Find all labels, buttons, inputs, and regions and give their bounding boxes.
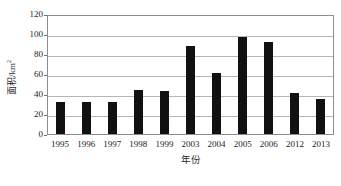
bar-slot — [178, 16, 204, 134]
y-axis-tick-label: 40 — [34, 90, 43, 99]
plot-area — [47, 15, 334, 135]
bar-slot — [255, 16, 281, 134]
bar-slot — [126, 16, 152, 134]
bar — [186, 46, 195, 134]
x-axis-tick-label: 1998 — [125, 137, 151, 151]
y-axis-tick-label: 0 — [39, 130, 44, 139]
bar — [212, 73, 221, 134]
y-axis-unit-exponent: 2 — [6, 59, 12, 62]
y-axis-tick-label: 20 — [34, 110, 43, 119]
bar — [56, 102, 65, 134]
x-axis-tick-labels: 1995199619971998199920032004200520062012… — [47, 137, 334, 151]
bar-slot — [203, 16, 229, 134]
x-axis-tick-label: 2004 — [204, 137, 230, 151]
bar — [264, 42, 273, 134]
x-axis-tick-label: 2003 — [177, 137, 203, 151]
x-axis-tick-label: 2005 — [230, 137, 256, 151]
x-axis-tick-label: 1999 — [151, 137, 177, 151]
x-axis-tick-label: 2012 — [282, 137, 308, 151]
bar-slot — [74, 16, 100, 134]
x-axis-tick-label: 2006 — [256, 137, 282, 151]
y-axis-title-text: 面积/km2 — [6, 59, 17, 94]
bar-chart-figure: 面积/km2 020406080100120 19951996199719981… — [0, 0, 341, 186]
bar — [238, 37, 247, 134]
bar — [316, 99, 325, 134]
x-axis-tick-label: 1996 — [73, 137, 99, 151]
y-axis-tick-label: 120 — [30, 10, 44, 19]
bar — [108, 102, 117, 134]
bar — [290, 93, 299, 134]
x-axis-title: 年份 — [47, 152, 334, 166]
bar-series — [48, 16, 333, 134]
x-axis-tick-label: 1997 — [99, 137, 125, 151]
y-axis-tick-label: 80 — [34, 50, 43, 59]
bar — [82, 102, 91, 134]
bar-slot — [100, 16, 126, 134]
bar-slot — [281, 16, 307, 134]
y-axis-tick-label: 100 — [30, 30, 44, 39]
bar-slot — [307, 16, 333, 134]
bar-slot — [48, 16, 74, 134]
x-axis-tick-label: 1995 — [47, 137, 73, 151]
bar-slot — [152, 16, 178, 134]
x-axis-tick-label: 2013 — [308, 137, 334, 151]
bar — [160, 91, 169, 134]
bar — [134, 90, 143, 134]
bar-slot — [229, 16, 255, 134]
y-axis-tick-label: 60 — [34, 70, 43, 79]
y-axis-tick-labels: 020406080100120 — [18, 14, 45, 136]
